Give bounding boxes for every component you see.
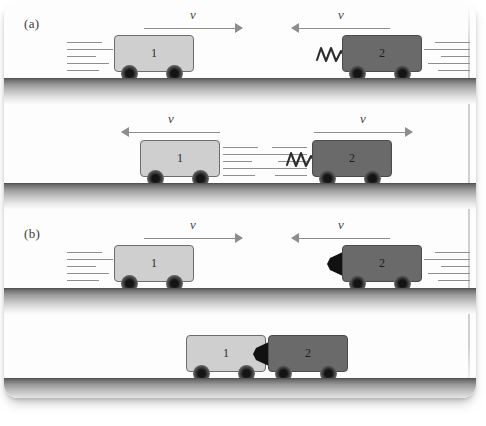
panel-label-a: (a) — [24, 16, 39, 32]
arrow-line — [122, 132, 220, 133]
figure-root: (a) v 1 v — [0, 0, 486, 426]
arrow-head-right-icon — [235, 233, 243, 243]
arrow-line — [292, 238, 390, 239]
cart-number: 2 — [268, 346, 348, 361]
arrow-head-left-icon — [291, 233, 299, 243]
cart-number: 2 — [342, 46, 422, 61]
speed-lines-a1-cart2 — [424, 40, 470, 74]
ground-b-row1 — [4, 288, 476, 314]
velocity-arrow-b1-cart1: v — [144, 220, 242, 246]
velocity-label: v — [360, 111, 366, 127]
page-surface: (a) v 1 v — [4, 2, 476, 398]
panel-label-b: (b) — [24, 226, 40, 242]
cart-number: 1 — [114, 256, 194, 271]
cart-number: 2 — [342, 256, 422, 271]
velocity-label: v — [190, 7, 196, 23]
cart-2-a-after: 2 — [312, 140, 392, 177]
velocity-arrow-a1-cart1: v — [144, 10, 242, 36]
cart-number: 1 — [114, 46, 194, 61]
speed-lines-b1-cart2 — [424, 250, 470, 284]
cart-1-a-after: 1 — [140, 140, 220, 177]
cart-2-b-before: 2 — [342, 245, 422, 282]
cart-2-a-before: 2 — [342, 35, 422, 72]
velocity-arrow-b1-cart2: v — [292, 220, 390, 246]
velocity-label: v — [338, 217, 344, 233]
arrow-head-left-icon — [291, 23, 299, 33]
arrow-head-right-icon — [235, 23, 243, 33]
velocity-arrow-a2-cart2: v — [314, 114, 412, 140]
arrow-head-right-icon — [405, 127, 413, 137]
cart-1-b-before: 1 — [114, 245, 194, 282]
velocity-label: v — [338, 7, 344, 23]
ground-a-row1 — [4, 78, 476, 104]
cart-number: 2 — [312, 151, 392, 166]
page-card: (a) v 1 v — [4, 2, 476, 398]
spring-bumper-icon — [316, 40, 344, 68]
velocity-label: v — [190, 217, 196, 233]
arrow-line — [314, 132, 412, 133]
cart-1-a-before: 1 — [114, 35, 194, 72]
velocity-arrow-a2-cart1: v — [122, 114, 220, 140]
cart-number: 1 — [140, 151, 220, 166]
cart-2-b-after: 2 — [268, 335, 348, 372]
velocity-arrow-a1-cart2: v — [292, 10, 390, 36]
velocity-label: v — [168, 111, 174, 127]
arrow-head-left-icon — [121, 127, 129, 137]
arrow-line — [292, 28, 390, 29]
arrow-line — [144, 28, 242, 29]
arrow-line — [144, 238, 242, 239]
speed-lines-b1-cart1 — [67, 250, 113, 284]
spring-bumper-icon — [286, 145, 314, 173]
speed-lines-a1-cart1 — [67, 40, 113, 74]
ground-a-row2 — [4, 183, 476, 209]
ground-b-row2 — [4, 378, 476, 398]
